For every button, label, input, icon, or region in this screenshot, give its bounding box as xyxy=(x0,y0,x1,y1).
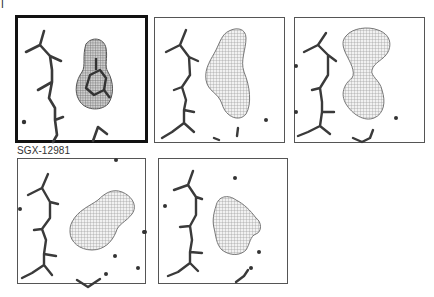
panel-2-density-mesh xyxy=(206,29,250,118)
panel-3-density-mesh xyxy=(343,28,390,119)
panel-5-density-mesh xyxy=(213,197,260,255)
density-map-drawings xyxy=(0,0,434,297)
panel-4-density-mesh xyxy=(70,191,134,250)
